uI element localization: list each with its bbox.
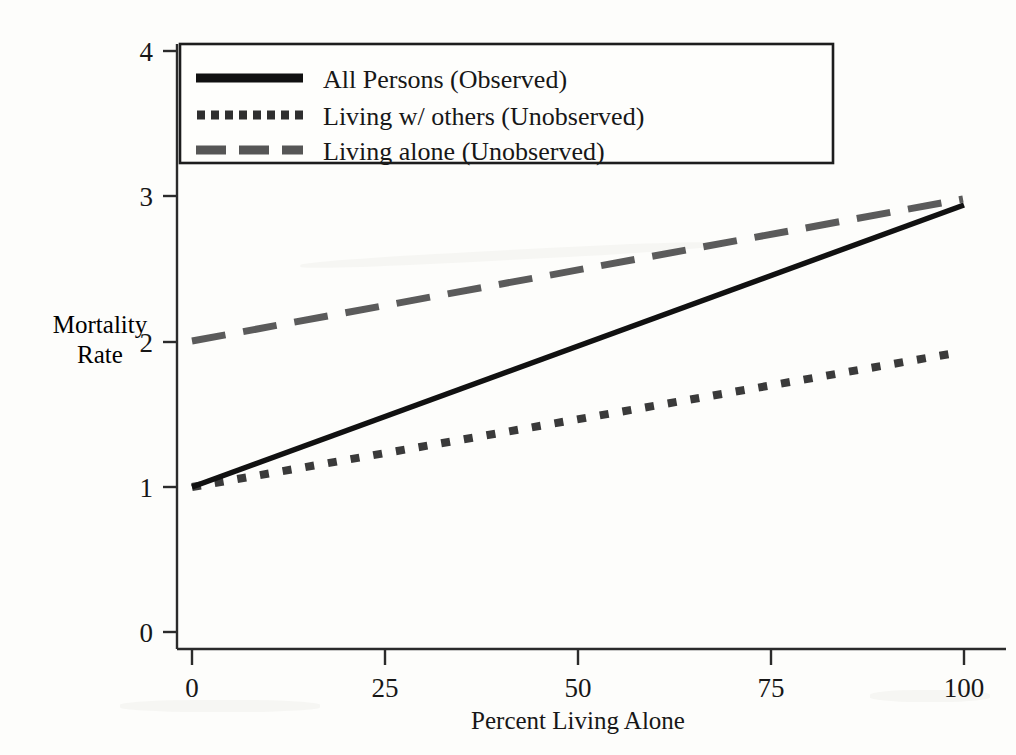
legend-label-all-persons: All Persons (Observed) [323,65,567,94]
y-axis-title-line1: Mortality [53,311,148,338]
y-tick-label-4: 4 [140,37,154,67]
x-tick-label-100: 100 [944,673,985,703]
x-axis-title: Percent Living Alone [471,707,685,734]
legend-label-living-alone: Living alone (Unobserved) [323,137,605,166]
figure-canvas: 4 3 2 1 0 0 25 50 75 100 Percent Living … [0,0,1016,755]
chart-svg: 4 3 2 1 0 0 25 50 75 100 Percent Living … [0,0,1016,755]
y-tick-label-0: 0 [140,618,154,648]
series-line-living-alone [192,199,963,341]
x-axis [177,649,1006,665]
y-axis-title-line2: Rate [77,341,123,368]
x-tick-label-75: 75 [758,673,785,703]
y-axis [163,44,177,649]
y-tick-label-1: 1 [140,473,154,503]
legend-label-living-with-others: Living w/ others (Unobserved) [323,102,644,131]
series-line-living-with-others [192,352,961,487]
series-line-all-persons [192,205,964,487]
x-tick-label-0: 0 [185,673,199,703]
x-tick-label-25: 25 [372,673,399,703]
mortality-rate-chart: 4 3 2 1 0 0 25 50 75 100 Percent Living … [0,0,1016,755]
y-tick-label-3: 3 [140,182,154,212]
x-tick-label-50: 50 [565,673,592,703]
chart-legend: All Persons (Observed) Living w/ others … [180,44,833,166]
